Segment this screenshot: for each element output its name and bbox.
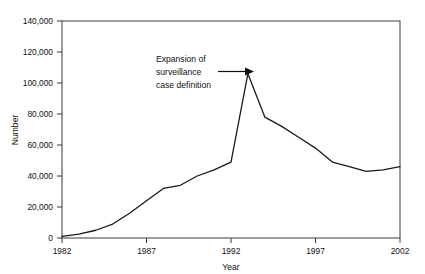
line-chart: 0 20,000 40,000 60,000 80,000 100,000 12… <box>0 0 425 274</box>
y-tick-label-80000: 80,000 <box>27 109 53 119</box>
data-series-line <box>62 74 400 237</box>
x-tick-label-1992: 1992 <box>222 246 241 256</box>
x-axis-ticks <box>62 238 400 243</box>
y-tick-label-120000: 120,000 <box>23 47 54 57</box>
y-axis-ticks <box>57 21 62 238</box>
y-tick-label-140000: 140,000 <box>23 16 54 26</box>
x-axis-title: Year <box>222 262 240 272</box>
y-tick-label-20000: 20,000 <box>27 202 53 212</box>
chart-figure: 0 20,000 40,000 60,000 80,000 100,000 12… <box>0 0 425 274</box>
annotation-line-3: case definition <box>156 80 211 90</box>
y-tick-label-60000: 60,000 <box>27 140 53 150</box>
x-tick-label-1987: 1987 <box>137 246 156 256</box>
annotation-line-2: surveillance <box>156 67 202 77</box>
x-tick-label-1997: 1997 <box>306 246 325 256</box>
annotation-line-1: Expansion of <box>156 54 206 64</box>
plot-frame <box>62 21 400 238</box>
y-tick-label-40000: 40,000 <box>27 171 53 181</box>
x-tick-label-1982: 1982 <box>53 246 72 256</box>
y-tick-label-100000: 100,000 <box>23 78 54 88</box>
y-tick-label-0: 0 <box>48 233 53 243</box>
y-axis-title: Number <box>10 115 20 146</box>
x-tick-label-2002: 2002 <box>391 246 410 256</box>
